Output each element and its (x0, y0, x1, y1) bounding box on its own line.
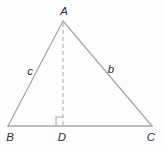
vertex-label-C: C (147, 131, 156, 143)
vertex-label-D: D (58, 131, 66, 143)
edge-AB (8, 21, 63, 126)
side-label-b: b (108, 63, 115, 75)
vertex-label-A: A (59, 5, 68, 17)
side-label-c: c (27, 65, 33, 77)
right-angle-marker (56, 117, 63, 126)
triangle-figure: A B C D c b (0, 0, 164, 151)
triangle-diagram-svg: A B C D c b (0, 0, 164, 151)
vertex-label-B: B (6, 131, 14, 143)
